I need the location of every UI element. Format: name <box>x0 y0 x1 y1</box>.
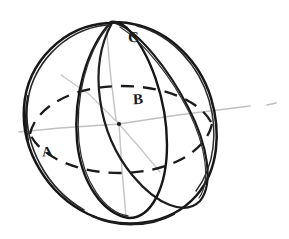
sphere-outline-third-pass <box>137 26 214 191</box>
axis-tick-far-right <box>267 103 276 105</box>
sphere-drawing <box>0 0 289 239</box>
meridian-narrow-path <box>76 22 167 218</box>
polar-axis-line <box>106 22 126 216</box>
point-label-b: B <box>133 92 144 108</box>
sphere-outline-second-pass <box>27 25 106 210</box>
point-label-c: C <box>128 30 139 45</box>
meridian-narrow-ellipse <box>76 22 167 218</box>
point-label-a: A <box>41 145 53 160</box>
chord-upper-left <box>61 75 119 124</box>
sphere-figure: A B C <box>0 0 289 239</box>
sphere-centre-dot <box>117 122 121 126</box>
